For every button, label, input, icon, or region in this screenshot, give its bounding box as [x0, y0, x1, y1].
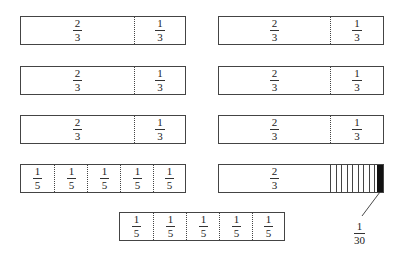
segment-fifth: 15	[153, 165, 185, 192]
fraction: 15	[264, 214, 274, 239]
bar-row4-left-fifths: 15 15 15 15 15	[20, 164, 186, 193]
fraction: 13	[352, 117, 362, 142]
bar-row1-left: 23 13	[20, 16, 186, 45]
subdivision-line	[363, 165, 364, 192]
segment-fifth: 15	[87, 165, 121, 192]
bar-row2-left: 23 13	[20, 66, 186, 95]
segment-one-third: 13	[134, 67, 185, 94]
fraction: 23	[73, 117, 83, 142]
fraction: 13	[352, 68, 362, 93]
segment-two-thirds: 23	[21, 17, 134, 44]
subdivision-line	[374, 165, 375, 192]
fraction: 23	[73, 68, 83, 93]
segment-fifth: 15	[21, 165, 54, 192]
bar-row4-right-thirtieths: 23	[218, 164, 384, 193]
segment-two-thirds: 23	[219, 116, 330, 143]
fraction: 15	[132, 214, 142, 239]
subdivision-line	[347, 165, 348, 192]
subdivision-line	[341, 165, 342, 192]
bar-row1-right: 23 13	[218, 16, 384, 45]
segment-fifth: 15	[252, 213, 284, 240]
bar-row3-left: 23 13	[20, 115, 186, 144]
bar-bottom-fifths: 15 15 15 15 15	[119, 212, 285, 241]
one-thirtieth-highlight	[377, 165, 383, 192]
segment-two-thirds: 23	[21, 116, 134, 143]
segment-two-thirds: 23	[219, 165, 330, 192]
fraction: 15	[199, 214, 209, 239]
fraction: 15	[33, 166, 43, 191]
segment-two-thirds: 23	[219, 17, 330, 44]
fraction: 13	[352, 18, 362, 43]
fraction: 15	[100, 166, 110, 191]
fraction: 130	[354, 221, 365, 246]
segment-one-third: 13	[330, 17, 383, 44]
segment-two-thirds: 23	[21, 67, 134, 94]
subdivision-line	[369, 165, 370, 192]
fraction: 13	[155, 117, 165, 142]
segment-one-third: 13	[134, 116, 185, 143]
fraction: 23	[73, 18, 83, 43]
fraction: 23	[270, 18, 280, 43]
subdivision-line	[336, 165, 337, 192]
fraction: 15	[165, 166, 175, 191]
callout-one-thirtieth: 130	[354, 216, 365, 246]
bar-row3-right: 23 13	[218, 115, 384, 144]
segment-fifth: 15	[186, 213, 220, 240]
fraction: 23	[270, 166, 280, 191]
segment-two-thirds: 23	[219, 67, 330, 94]
subdivision-line	[330, 165, 331, 192]
segment-one-third: 13	[330, 67, 383, 94]
segment-one-third: 13	[330, 116, 383, 143]
fraction: 13	[155, 18, 165, 43]
subdivision-line	[358, 165, 359, 192]
fraction: 13	[155, 68, 165, 93]
fraction: 23	[270, 68, 280, 93]
subdivision-line	[352, 165, 353, 192]
segment-fifth: 15	[120, 165, 154, 192]
fraction: 23	[270, 117, 280, 142]
segment-fifth: 15	[219, 213, 253, 240]
segment-one-third: 13	[134, 17, 185, 44]
fraction: 15	[133, 166, 143, 191]
bar-row2-right: 23 13	[218, 66, 384, 95]
fraction: 15	[166, 214, 176, 239]
fraction: 15	[67, 166, 77, 191]
segment-fifth: 15	[153, 213, 187, 240]
segment-fifth: 15	[54, 165, 88, 192]
segment-fifth: 15	[120, 213, 153, 240]
fraction: 15	[232, 214, 242, 239]
